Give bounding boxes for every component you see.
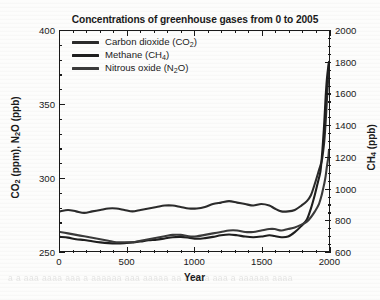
y-axis-right-tick-label: 1600 [335,88,356,99]
y-axis-left-tick-labels: 400350300250 [0,30,55,252]
chart-legend: Carbon dioxide (CO2)Methane (CH4)Nitrous… [72,36,242,75]
y-axis-right-tick-label: 1000 [335,183,356,194]
tick-major [325,252,331,253]
y-axis-right-tick-label: 600 [335,247,351,258]
y-axis-left-title: CO2 (ppm), N2O (ppb) [10,67,23,227]
x-axis-tick-label: 0 [56,256,61,267]
legend-line-swatch [72,54,99,57]
y-axis-right-ticks [330,30,331,252]
series-line-1 [60,62,329,243]
y-axis-right-tick-label: 1800 [335,56,356,67]
legend-item: Methane (CH4) [72,49,242,62]
x-axis-title: Year [59,272,330,283]
greenhouse-gas-chart-figure: Concentrations of greenhouse gases from … [0,0,380,300]
x-axis-ticks [59,252,330,253]
x-axis-tick-label: 500 [119,256,135,267]
x-axis-tick-label: 1500 [251,256,272,267]
y-axis-left-tick-label: 400 [39,25,55,36]
legend-item: Nitrous oxide (N2O) [72,62,242,75]
x-axis-tick-label: 1000 [183,256,204,267]
x-axis-tick-label: 2000 [319,256,340,267]
tick-major [59,252,65,253]
y-axis-right-tick-label: 1200 [335,151,356,162]
legend-item: Carbon dioxide (CO2) [72,36,242,49]
y-axis-right-title: CH4 (ppb) [366,67,379,227]
y-axis-right-tick-label: 1400 [335,120,356,131]
legend-item-label: Carbon dioxide (CO2) [105,36,197,49]
series-line-2 [60,150,329,242]
y-axis-right-tick-label: 2000 [335,25,356,36]
legend-item-label: Methane (CH4) [105,49,169,62]
y-axis-left-tick-label: 350 [39,99,55,110]
series-line-0 [60,62,329,213]
legend-line-swatch [72,41,99,44]
y-axis-left-tick-label: 300 [39,173,55,184]
x-axis-tick-labels: 0500100015002000 [59,256,330,270]
y-axis-right-tick-label: 800 [335,215,351,226]
chart-title: Concentrations of greenhouse gases from … [59,14,331,25]
y-axis-left-tick-label: 250 [39,247,55,258]
legend-item-label: Nitrous oxide (N2O) [105,62,188,75]
legend-line-swatch [72,67,99,70]
